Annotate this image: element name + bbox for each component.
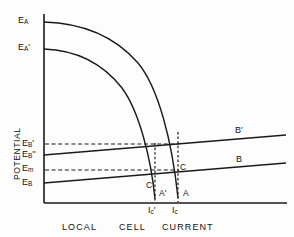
plot-canvas — [0, 0, 294, 237]
label-I-sub-c-prime: Ic' — [148, 206, 155, 216]
label-E-sub-A-prime: EA' — [18, 43, 30, 53]
x-axis-word-local: LOCAL — [62, 222, 97, 232]
label-E-sub-B-double-prime: EB'' — [22, 150, 36, 160]
label-B: B — [236, 155, 242, 164]
label-C-prime: C' — [146, 181, 154, 190]
label-B-prime: B' — [235, 126, 243, 135]
polarization-diagram: POTENTIAL EA EA' EB' EB'' Em EB B' B C' … — [0, 0, 294, 237]
label-E-sub-B-prime: EB' — [22, 139, 34, 149]
label-E-sub-B: EB — [22, 178, 32, 188]
anodic-line-B-prime — [44, 135, 286, 155]
label-E-sub-m: Em — [22, 164, 33, 174]
anodic-line-B — [44, 163, 286, 183]
cathodic-curve-A-prime — [44, 49, 155, 199]
label-E-sub-A: EA — [18, 16, 28, 26]
x-axis-word-cell: CELL — [119, 222, 146, 232]
label-A-prime: A' — [159, 189, 166, 198]
label-I-sub-c: Ic — [172, 206, 178, 216]
y-axis-label: POTENTIAL — [12, 127, 22, 180]
x-axis-word-current: CURRENT — [162, 222, 214, 232]
label-C: C — [180, 163, 186, 172]
cathodic-curve-A — [44, 22, 178, 198]
label-A: A — [183, 189, 189, 198]
